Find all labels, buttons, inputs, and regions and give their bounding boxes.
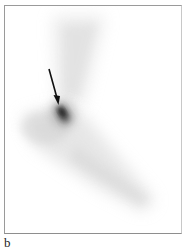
leg-uptake-region (53, 16, 105, 106)
panel-label: b (4, 236, 11, 250)
scintigraphy-image (5, 6, 181, 233)
foot-uptake-region (21, 106, 155, 211)
scan-frame (4, 5, 182, 234)
